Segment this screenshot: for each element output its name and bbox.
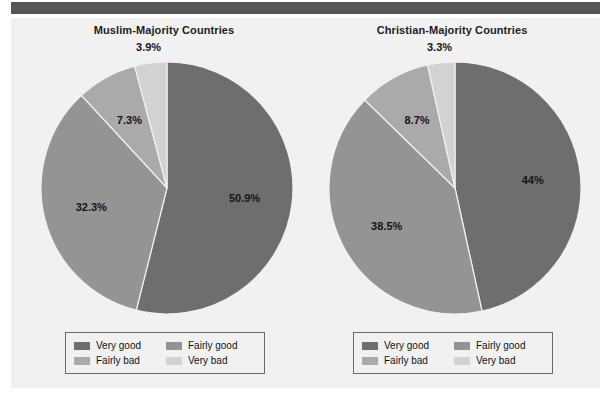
slice-label-very-good: 44% (522, 174, 544, 186)
pie-chart-christian-majority: Christian-Majority Countries 44% 38.5% 8… (305, 18, 599, 388)
scanned-page: Muslim-Majority Countries 50.9% 32.3% 7.… (0, 0, 614, 397)
legend-label-very-bad: Very bad (476, 355, 515, 366)
pie-chart-muslim-majority: Muslim-Majority Countries 50.9% 32.3% 7.… (17, 18, 311, 388)
legend-label-fairly-bad: Fairly bad (384, 355, 428, 366)
legend-item-fairly-good: Fairly good (454, 340, 546, 351)
chart-title-christian-majority: Christian-Majority Countries (305, 24, 599, 36)
slice-label-very-good: 50.9% (229, 192, 260, 204)
pie-svg-christian-majority (329, 62, 581, 314)
legend-label-very-good: Very good (96, 340, 141, 351)
figure-panel: Muslim-Majority Countries 50.9% 32.3% 7.… (11, 18, 600, 388)
pie-figure-christian-majority: 44% 38.5% 8.7% 3.3% (329, 62, 581, 314)
pie-svg-muslim-majority (41, 62, 293, 314)
legend-label-fairly-good: Fairly good (188, 340, 237, 351)
legend-swatch-very-good (74, 342, 90, 350)
legend-item-fairly-bad: Fairly bad (74, 355, 166, 366)
legend-christian-majority: Very good Fairly good Fairly bad Very ba… (353, 332, 553, 374)
chart-title-muslim-majority: Muslim-Majority Countries (17, 24, 311, 36)
slice-label-fairly-good: 32.3% (76, 201, 107, 213)
legend-item-fairly-good: Fairly good (166, 340, 258, 351)
slice-label-fairly-bad: 7.3% (117, 114, 142, 126)
legend-label-fairly-good: Fairly good (476, 340, 525, 351)
page-header-band (11, 2, 600, 14)
legend-label-fairly-bad: Fairly bad (96, 355, 140, 366)
legend-item-very-bad: Very bad (166, 355, 258, 366)
legend-muslim-majority: Very good Fairly good Fairly bad Very ba… (65, 332, 265, 374)
slice-label-fairly-good: 38.5% (371, 220, 402, 232)
legend-swatch-very-good (362, 342, 378, 350)
legend-item-very-good: Very good (74, 340, 166, 351)
legend-label-very-bad: Very bad (188, 355, 227, 366)
legend-label-very-good: Very good (384, 340, 429, 351)
slice-label-fairly-bad: 8.7% (404, 114, 429, 126)
pie-figure-muslim-majority: 50.9% 32.3% 7.3% 3.9% (41, 62, 293, 314)
legend-swatch-fairly-bad (362, 357, 378, 365)
legend-item-very-bad: Very bad (454, 355, 546, 366)
legend-swatch-very-bad (454, 357, 470, 365)
legend-item-very-good: Very good (362, 340, 454, 351)
legend-swatch-fairly-good (166, 342, 182, 350)
slice-label-very-bad: 3.3% (427, 41, 452, 53)
legend-swatch-fairly-bad (74, 357, 90, 365)
legend-swatch-very-bad (166, 357, 182, 365)
legend-item-fairly-bad: Fairly bad (362, 355, 454, 366)
slice-label-very-bad: 3.9% (136, 41, 161, 53)
legend-swatch-fairly-good (454, 342, 470, 350)
